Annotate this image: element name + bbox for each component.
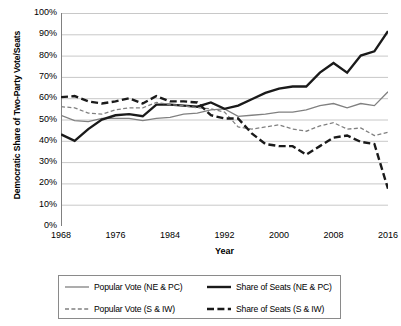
legend-item-label: Share of Seats (S & IW) xyxy=(236,304,324,314)
chart-canvas xyxy=(61,13,388,226)
legend-line-swatch-icon xyxy=(65,304,89,314)
legend-item[interactable]: Share of Seats (NE & PC) xyxy=(201,282,342,292)
legend-line-swatch-icon xyxy=(207,304,231,314)
x-tick-label: 2016 xyxy=(378,231,398,240)
x-tick-label: 1976 xyxy=(105,231,125,240)
y-axis-tick-labels: 0%10%20%30%40%50%60%70%80%90%100% xyxy=(0,0,57,326)
x-axis-title: Year xyxy=(61,246,388,256)
y-tick-label: 0% xyxy=(5,221,57,230)
legend-item-label: Popular Vote (S & IW) xyxy=(94,304,175,314)
x-tick-label: 1984 xyxy=(160,231,180,240)
series-line-1 xyxy=(61,31,388,141)
y-tick-label: 40% xyxy=(5,136,57,145)
x-tick-label: 2008 xyxy=(323,231,343,240)
legend-line-swatch-icon xyxy=(65,282,89,292)
y-tick-label: 100% xyxy=(5,8,57,17)
chart-legend: Popular Vote (NE & PC)Share of Seats (NE… xyxy=(58,275,341,319)
x-tick-label: 2000 xyxy=(269,231,289,240)
y-tick-label: 20% xyxy=(5,178,57,187)
chart-figure: Democratic Share of Two-Party Vote/Seats… xyxy=(0,0,401,326)
legend-item[interactable]: Popular Vote (NE & PC) xyxy=(59,282,201,292)
legend-line-swatch-icon xyxy=(207,282,231,292)
y-tick-label: 60% xyxy=(5,93,57,102)
legend-item[interactable]: Popular Vote (S & IW) xyxy=(59,304,201,314)
y-tick-label: 10% xyxy=(5,200,57,209)
legend-item-label: Share of Seats (NE & PC) xyxy=(236,282,332,292)
legend-item-label: Popular Vote (NE & PC) xyxy=(94,282,182,292)
y-tick-label: 90% xyxy=(5,29,57,38)
x-tick-label: 1968 xyxy=(51,231,71,240)
x-axis-tick-labels: 1968197619841992200020082016 xyxy=(0,231,401,245)
y-tick-label: 30% xyxy=(5,157,57,166)
x-tick-label: 1992 xyxy=(214,231,234,240)
y-tick-label: 80% xyxy=(5,51,57,60)
y-tick-label: 70% xyxy=(5,72,57,81)
y-tick-label: 50% xyxy=(5,115,57,124)
plot-area xyxy=(61,13,388,226)
legend-item[interactable]: Share of Seats (S & IW) xyxy=(201,304,342,314)
